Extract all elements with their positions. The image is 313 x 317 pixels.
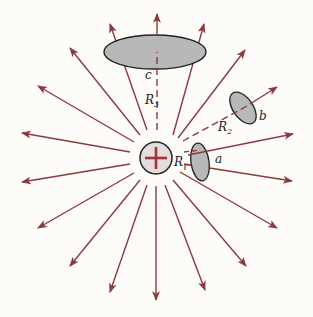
field-line (173, 180, 246, 266)
label-c: c (145, 68, 152, 82)
field-line (165, 185, 205, 290)
field-line-r (188, 134, 293, 155)
field-line (70, 180, 140, 266)
field-line (22, 133, 130, 152)
surface-a (188, 142, 211, 182)
surface-c (104, 35, 206, 69)
field-line-r2 (250, 87, 277, 104)
field-line (38, 173, 134, 228)
label-r2: R2 (217, 120, 232, 136)
label-b: b (259, 109, 267, 123)
field-line (180, 172, 277, 228)
field-line (38, 86, 134, 142)
label-a: a (215, 152, 222, 166)
label-r: R (173, 155, 183, 169)
field-lines-diagram: c R3 b R2 a R (0, 0, 313, 317)
field-line (110, 185, 147, 292)
positive-charge (140, 142, 172, 174)
field-line (22, 164, 130, 182)
